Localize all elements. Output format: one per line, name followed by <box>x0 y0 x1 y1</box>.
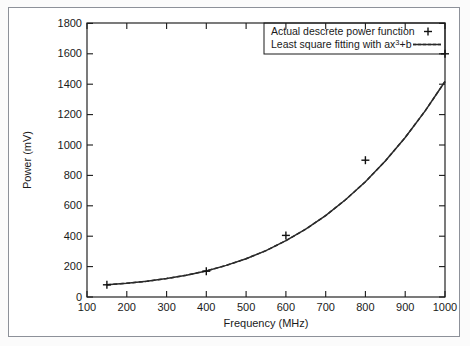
fit-curve-dash-overlay <box>107 82 445 285</box>
x-axis-ticks: 100 200 300 400 500 600 <box>78 23 457 313</box>
legend-label-fit: Least square fitting with ax3+b <box>271 38 412 51</box>
x-tick-label: 200 <box>118 301 136 313</box>
y-tick-label: 800 <box>64 169 82 181</box>
plus-marker-icon <box>424 28 432 36</box>
x-tick-label: 800 <box>356 301 374 313</box>
x-tick-label: 600 <box>277 301 295 313</box>
x-tick-label: 100 <box>78 301 96 313</box>
y-tick-label: 1400 <box>58 78 82 90</box>
chart-plot: 0 200 400 600 800 1000 <box>9 8 459 336</box>
data-point-markers <box>103 50 449 289</box>
x-tick-label: 900 <box>396 301 414 313</box>
y-axis-title: Power (mV) <box>21 131 33 189</box>
legend-label-actual: Actual descrete power function <box>271 25 415 37</box>
x-tick-label: 400 <box>197 301 215 313</box>
legend-fit-base: Least square fitting with ax <box>271 38 396 50</box>
figure-border: 0 200 400 600 800 1000 <box>8 7 460 337</box>
y-tick-label: 1200 <box>58 108 82 120</box>
x-tick-label: 700 <box>317 301 335 313</box>
x-axis-title: Frequency (MHz) <box>224 317 309 329</box>
chart-legend: Actual descrete power function Least squ… <box>264 23 445 54</box>
x-tick-label: 500 <box>237 301 255 313</box>
legend-fit-tail: +b <box>400 38 412 50</box>
x-tick-label: 300 <box>157 301 175 313</box>
y-tick-label: 600 <box>64 199 82 211</box>
figure-canvas: 0 200 400 600 800 1000 <box>0 0 470 346</box>
y-tick-label: 200 <box>64 260 82 272</box>
y-tick-label: 1000 <box>58 139 82 151</box>
data-point-marker <box>282 231 290 239</box>
y-tick-label: 1600 <box>58 47 82 59</box>
x-tick-label: 1000 <box>433 301 457 313</box>
fit-curve-path <box>107 82 445 285</box>
data-point-marker <box>361 156 369 164</box>
y-tick-label: 400 <box>64 230 82 242</box>
y-tick-label: 1800 <box>58 17 82 29</box>
plot-frame <box>87 23 445 297</box>
data-point-marker <box>202 267 210 275</box>
data-point-marker <box>103 281 111 289</box>
